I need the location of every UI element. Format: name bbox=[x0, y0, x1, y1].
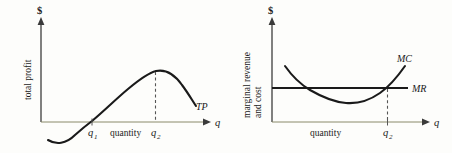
right-x-axis-variable: q bbox=[434, 117, 439, 128]
right-y-axis-arrow-icon bbox=[269, 17, 276, 25]
left-x-axis-arrow-icon bbox=[203, 119, 211, 126]
left-q2-label-base: q bbox=[151, 127, 156, 138]
left-q1-label-subscript: 1 bbox=[94, 133, 98, 141]
right-y-axis-currency-symbol: $ bbox=[268, 5, 273, 16]
total-profit-chart: $ total profit q 1 quantity q 2 q bbox=[23, 5, 220, 143]
left-x-axis-variable: q bbox=[215, 117, 220, 128]
right-x-axis-arrow-icon bbox=[422, 119, 430, 126]
right-x-axis-label: quantity bbox=[310, 128, 341, 138]
left-y-axis-arrow-icon bbox=[38, 17, 45, 25]
right-q2-label-subscript: 2 bbox=[389, 133, 393, 141]
left-q2-label: q 2 bbox=[151, 127, 161, 141]
right-y-axis-label-line2: and cost bbox=[253, 86, 263, 118]
left-x-axis-label: quantity bbox=[110, 128, 141, 138]
left-q1-label-base: q bbox=[88, 127, 93, 138]
left-y-axis-label: total profit bbox=[23, 59, 33, 100]
marginal-revenue-cost-chart: $ marginal revenue and cost quantity q 2… bbox=[242, 5, 439, 141]
total-profit-curve-label: TP bbox=[196, 101, 208, 112]
left-q1-label: q 1 bbox=[88, 127, 98, 141]
marginal-revenue-line-label: MR bbox=[411, 83, 426, 94]
marginal-cost-curve-label: MC bbox=[396, 53, 412, 64]
right-q2-label: q 2 bbox=[383, 127, 393, 141]
left-q2-label-subscript: 2 bbox=[157, 133, 161, 141]
economics-figure-pair: $ total profit q 1 quantity q 2 q bbox=[0, 0, 452, 153]
right-y-axis-label-line1: marginal revenue bbox=[242, 52, 252, 118]
left-y-axis-currency-symbol: $ bbox=[37, 5, 42, 16]
right-q2-label-base: q bbox=[383, 127, 388, 138]
